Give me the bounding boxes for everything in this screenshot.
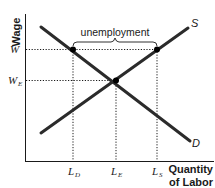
svg-text:L: L	[151, 165, 158, 177]
svg-text:L: L	[110, 165, 117, 177]
x-axis-title-line2: of Labor	[169, 176, 214, 188]
svg-text:D: D	[74, 171, 80, 179]
unemployment-label: unemployment	[81, 26, 150, 38]
svg-text:S: S	[159, 171, 163, 179]
l-d-label: L D	[67, 165, 80, 179]
svg-text:E: E	[17, 80, 23, 88]
x-axis-title-line1: Quantity	[168, 163, 213, 175]
w-label: W	[10, 43, 20, 55]
point-supply-at-w	[154, 47, 160, 53]
unemployment-brace	[73, 38, 157, 46]
svg-text:E: E	[117, 171, 123, 179]
labor-market-diagram: Wage Quantity of Labor W W E L D L E L S…	[0, 0, 215, 188]
supply-label: S	[191, 17, 199, 29]
w-e-label: W E	[8, 74, 23, 88]
svg-text:L: L	[67, 165, 74, 177]
point-equilibrium	[113, 78, 119, 84]
svg-text:W: W	[8, 74, 18, 86]
point-demand-at-w	[70, 47, 76, 53]
l-e-label: L E	[110, 165, 123, 179]
l-s-label: L S	[151, 165, 163, 179]
demand-label: D	[192, 137, 200, 149]
